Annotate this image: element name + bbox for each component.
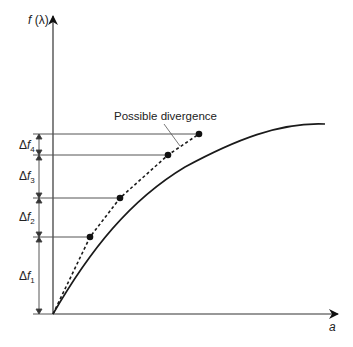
delta-f1-label: Δf1: [19, 269, 35, 285]
solution-points: [87, 131, 203, 241]
delta-f3-label: Δf3: [19, 169, 35, 185]
true-equilibrium-curve: [53, 124, 325, 314]
solution-point-1: [87, 234, 94, 241]
solution-point-3: [165, 152, 172, 159]
increment-labels: Δf4 Δf3 Δf2 Δf1: [19, 138, 35, 285]
solution-point-4: [196, 131, 203, 138]
possible-divergence-label: Possible divergence: [114, 110, 217, 122]
x-axis-label: a: [329, 320, 336, 334]
annotation-leader-line: [164, 124, 180, 146]
increment-dimension-line: [36, 134, 42, 314]
delta-f2-label: Δf2: [19, 210, 35, 226]
delta-f4-label: Δf4: [19, 138, 35, 154]
solution-point-2: [117, 195, 124, 202]
y-axis-label: f (λ): [28, 13, 49, 27]
divergence-diagram: f (λ) a Δf4 Δf3 Δf2 Δf1: [0, 0, 353, 347]
incremental-solution-path: [53, 134, 199, 314]
